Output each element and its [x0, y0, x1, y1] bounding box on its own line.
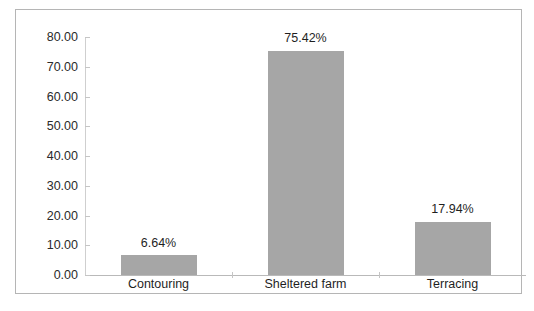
bar-data-label: 75.42%	[284, 32, 326, 45]
x-axis-separator-tick	[232, 272, 233, 278]
y-axis-tick-label: 0.00	[20, 269, 78, 282]
y-axis-tick-label: 50.00	[20, 120, 78, 133]
x-axis-category-label: Terracing	[427, 278, 478, 291]
x-axis-line	[85, 275, 526, 276]
y-axis-tick-mark	[85, 37, 90, 38]
bar	[121, 255, 197, 275]
plot-area: 6.64%75.42%17.94%	[85, 28, 526, 284]
x-axis-labels: ContouringSheltered farmTerracing	[85, 278, 526, 302]
y-axis-tick-label: 10.00	[20, 239, 78, 252]
y-axis-tick-label: 60.00	[20, 90, 78, 103]
x-axis-separator-tick	[379, 272, 380, 278]
bar-data-label: 6.64%	[141, 237, 176, 250]
bar	[268, 51, 344, 275]
chart-frame: 0.0010.0020.0030.0040.0050.0060.0070.008…	[15, 9, 522, 294]
y-axis-tick-mark	[85, 245, 90, 246]
x-axis-category-label: Sheltered farm	[265, 278, 347, 291]
y-axis-tick-mark	[85, 216, 90, 217]
y-axis-tick-label: 30.00	[20, 180, 78, 193]
y-axis-tick-mark	[85, 67, 90, 68]
bar-data-label: 17.94%	[431, 203, 473, 216]
y-axis-tick-mark	[85, 97, 90, 98]
y-axis-tick-mark	[85, 156, 90, 157]
y-axis-tick-label: 20.00	[20, 209, 78, 222]
y-axis-tick-mark	[85, 186, 90, 187]
x-axis-category-label: Contouring	[128, 278, 189, 291]
y-axis-tick-label: 80.00	[20, 31, 78, 44]
bar-chart-figure: 0.0010.0020.0030.0040.0050.0060.0070.008…	[0, 0, 534, 311]
bar	[415, 222, 491, 275]
y-axis-tick-label: 70.00	[20, 61, 78, 74]
bars-layer: 6.64%75.42%17.94%	[85, 37, 526, 275]
y-axis-tick-label: 40.00	[20, 150, 78, 163]
y-axis-labels: 0.0010.0020.0030.0040.0050.0060.0070.008…	[16, 28, 78, 284]
y-axis-tick-mark	[85, 126, 90, 127]
y-axis-tick-mark	[85, 275, 90, 276]
figure-caption	[0, 301, 534, 311]
